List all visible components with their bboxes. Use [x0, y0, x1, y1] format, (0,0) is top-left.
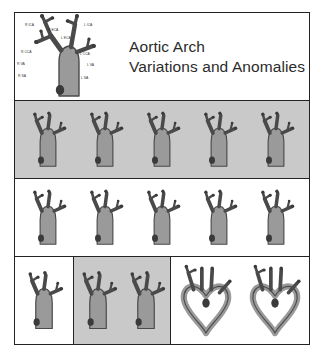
variant-panel-a	[15, 257, 74, 344]
label-r-eca: R ECA	[48, 28, 58, 32]
label-r-va: R VA	[17, 62, 25, 66]
label-l-sa: L SA	[81, 76, 88, 80]
variant-14-figure	[177, 264, 235, 338]
variant-4-figure	[198, 110, 240, 170]
variant-13-figure	[124, 268, 168, 334]
variant-11-figure	[22, 268, 66, 334]
label-r-sa: R SA	[18, 74, 26, 78]
variant-row-1	[15, 101, 309, 179]
variant-8-figure	[141, 188, 183, 248]
variant-panel-b	[74, 257, 171, 344]
aortic-root-marker	[56, 85, 64, 95]
variant-row-3	[15, 257, 309, 344]
poster-title: Aortic Arch Variations and Anomalies	[123, 37, 309, 77]
variant-2-figure	[84, 110, 126, 170]
variant-7-figure	[84, 188, 126, 248]
variant-6-figure	[27, 188, 69, 248]
label-r-cca: R CCA	[21, 50, 32, 54]
label-l-cca: L CCA	[80, 52, 90, 56]
variant-strip-1	[15, 101, 309, 178]
label-l-eca: L ECA	[61, 36, 71, 40]
label-l-va: L VA	[87, 63, 94, 67]
variant-10-figure	[255, 188, 297, 248]
variant-1-figure	[27, 110, 69, 170]
title-line-1: Aortic Arch	[129, 37, 309, 57]
variant-5-figure	[255, 110, 297, 170]
poster-header: R ICAR ECAL ICAL ECAR CCAL CCAR VAL VAR …	[15, 13, 309, 101]
variant-12-figure	[76, 268, 120, 334]
variant-strip-2	[15, 179, 309, 256]
variant-panel-c	[171, 257, 309, 344]
label-l-ica: L ICA	[84, 23, 92, 27]
title-line-2: Variations and Anomalies	[129, 57, 309, 77]
variant-9-figure	[198, 188, 240, 248]
label-r-ica: R ICA	[25, 23, 34, 27]
variant-15-figure	[246, 264, 304, 338]
variant-3-figure	[141, 110, 183, 170]
header-aortic-arch-figure: R ICAR ECAL ICAL ECAR CCAL CCAR VAL VAR …	[15, 14, 123, 100]
variant-row-2	[15, 179, 309, 257]
poster-frame: R ICAR ECAL ICAL ECAR CCAL CCAR VAL VAR …	[14, 12, 310, 345]
